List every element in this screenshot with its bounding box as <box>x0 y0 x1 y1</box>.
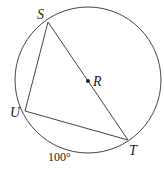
center-point-r <box>86 79 90 83</box>
label-t: T <box>129 143 138 158</box>
label-u: U <box>10 105 21 120</box>
segment-su <box>25 22 48 111</box>
arc-measure-label: 100° <box>48 150 71 164</box>
geometry-diagram: S R U T 100° <box>0 0 164 176</box>
label-r: R <box>92 74 102 89</box>
label-s: S <box>37 7 44 22</box>
